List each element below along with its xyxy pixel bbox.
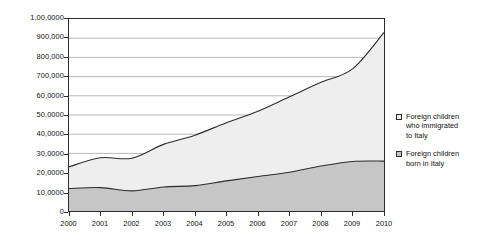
x-axis-tick [195,212,196,216]
y-axis-labels: 1,00,0000 900,000 800,000 700,000 60,000… [0,0,64,240]
x-axis-tick [163,212,164,216]
legend-swatch-icon [396,114,402,120]
x-axis-label: 2010 [364,219,404,228]
y-axis-label: 20,0000 [2,169,64,177]
plot-svg [69,19,384,211]
x-axis-tick [132,212,133,216]
y-axis-label: 1,00,0000 [2,14,64,22]
legend-item-label: Foreign children born in Italy [406,149,459,168]
x-axis-tick [289,212,290,216]
area-chart: 1,00,0000 900,000 800,000 700,000 60,000… [0,0,487,240]
y-axis-label: 10,0000 [2,189,64,197]
y-axis-label: 50,0000 [2,111,64,119]
x-axis-tick [321,212,322,216]
legend-swatch-icon [396,151,402,157]
y-axis-label: 60,0000 [2,92,64,100]
plot-area [68,18,385,212]
y-axis-label: 0 [2,208,64,216]
x-axis-tick [100,212,101,216]
y-axis-label: 700,000 [2,72,64,80]
legend-item-label: Foreign children who immigrated to Italy [406,112,459,140]
legend: Foreign children who immigrated to Italy… [396,112,487,177]
y-axis-tick [64,212,68,213]
x-axis-tick [258,212,259,216]
x-axis-tick [226,212,227,216]
y-axis-label: 800,000 [2,53,64,61]
y-axis-label: 40,0000 [2,130,64,138]
x-axis-tick [352,212,353,216]
y-axis-label: 900,000 [2,33,64,41]
legend-item-born: Foreign children born in Italy [396,149,487,168]
x-axis-tick [69,212,70,216]
legend-item-immigrated: Foreign children who immigrated to Italy [396,112,487,140]
y-axis-label: 30,0000 [2,150,64,158]
x-axis-tick [384,212,385,216]
